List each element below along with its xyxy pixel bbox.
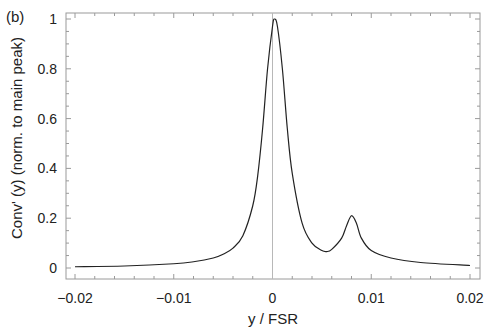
- x-axis-label: y / FSR: [248, 310, 298, 327]
- y-tick-label: 0.6: [38, 111, 58, 127]
- y-axis-label: Conv' (y) (norm. to main peak): [8, 37, 25, 239]
- y-tick-label: 0.2: [38, 210, 58, 226]
- y-tick-label: 0: [49, 260, 57, 276]
- y-tick-label: 0.4: [38, 160, 58, 176]
- y-axis-ticks: 00.20.40.60.81: [38, 11, 480, 276]
- y-tick-label: 0.8: [38, 61, 58, 77]
- x-tick-label: −0.02: [57, 290, 93, 306]
- line-chart: −0.02−0.0100.010.02 00.20.40.60.81 y / F…: [0, 0, 494, 331]
- x-tick-label: 0.02: [456, 290, 483, 306]
- y-tick-label: 1: [49, 11, 57, 27]
- x-tick-label: 0.01: [358, 290, 385, 306]
- x-tick-label: −0.01: [156, 290, 192, 306]
- x-tick-label: 0: [269, 290, 277, 306]
